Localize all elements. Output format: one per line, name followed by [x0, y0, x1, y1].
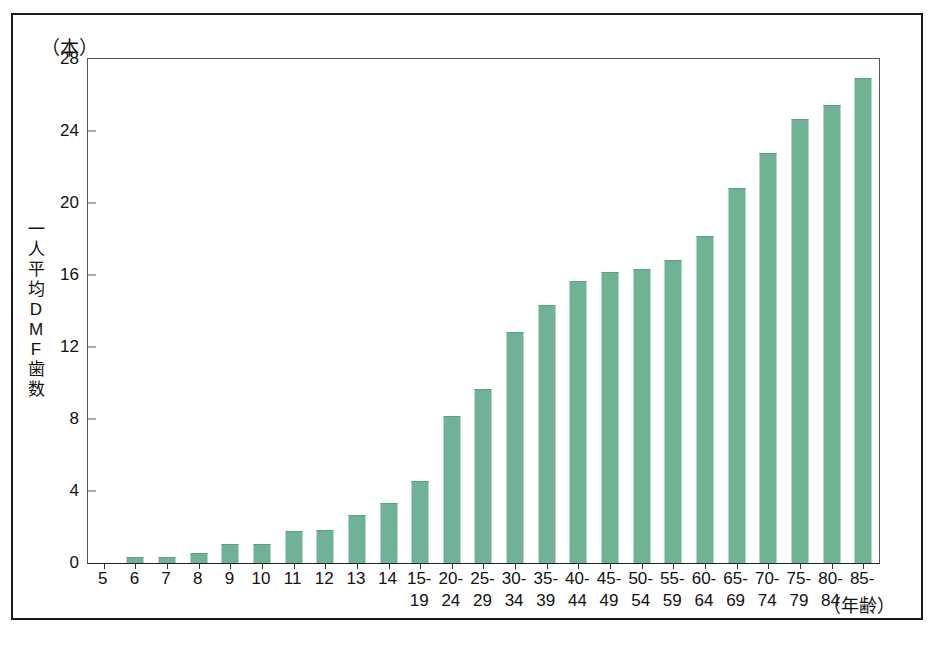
x-tick-label: 6: [130, 568, 139, 590]
x-tick-label: 20-24: [439, 568, 464, 612]
x-tick-label-line1: 55-: [660, 569, 685, 588]
y-axis-title-char: 均: [23, 280, 49, 300]
x-tick-label: 65-69: [723, 568, 748, 612]
y-axis-title-char: 一: [23, 220, 49, 240]
x-tick-label: 55-59: [660, 568, 685, 612]
bar: [380, 503, 397, 563]
x-tick-label-line1: 14: [378, 569, 397, 588]
x-tick-label-line1: 60-: [692, 569, 717, 588]
bar-slot: [689, 59, 721, 563]
bar-slot: [721, 59, 753, 563]
x-tick-label-line1: 13: [346, 569, 365, 588]
x-tick-label-line2: 64: [692, 590, 717, 612]
x-tick-label-line1: 45-: [597, 569, 622, 588]
bar-slot: [816, 59, 848, 563]
x-tick-label-line1: 8: [193, 569, 202, 588]
bar-slot: [151, 59, 183, 563]
y-tick-label: 4: [70, 481, 79, 501]
bar-slot: [752, 59, 784, 563]
x-tick-label: 13: [346, 568, 365, 590]
x-tick-label-line1: 30-: [502, 569, 527, 588]
y-tick-label: 16: [60, 265, 79, 285]
x-tick-label: 5: [98, 568, 107, 590]
x-tick-label: 60-64: [692, 568, 717, 612]
x-tick-label: 7: [161, 568, 170, 590]
bar: [317, 530, 334, 563]
x-tick-label: 8: [193, 568, 202, 590]
x-tick-label-line1: 6: [130, 569, 139, 588]
bar: [633, 269, 650, 563]
bar: [254, 544, 271, 563]
x-tick-label-line1: 80-: [818, 569, 843, 588]
x-tick-label: 45-49: [597, 568, 622, 612]
y-tick-label: 0: [70, 553, 79, 573]
x-tick-label: 70-74: [755, 568, 780, 612]
bar: [665, 260, 682, 563]
bar-slot: [215, 59, 247, 563]
x-tick-label-line2: 44: [565, 590, 590, 612]
bar-slot: [120, 59, 152, 563]
bar-slot: [341, 59, 373, 563]
x-tick-label: 14: [378, 568, 397, 590]
bar: [570, 281, 587, 563]
x-tick-label: 50-54: [628, 568, 653, 612]
x-tick-label-line1: 50-: [628, 569, 653, 588]
x-tick-label-line1: 70-: [755, 569, 780, 588]
x-tick-label-line2: 74: [755, 590, 780, 612]
bar: [538, 305, 555, 563]
bar: [823, 105, 840, 563]
bar-slot: [499, 59, 531, 563]
bar: [412, 481, 429, 563]
bar-slot: [531, 59, 563, 563]
x-tick-label-line2: 54: [628, 590, 653, 612]
x-tick-label: 25-29: [470, 568, 495, 612]
y-tick-label: 28: [60, 49, 79, 69]
bar: [507, 332, 524, 563]
bar-slot: [373, 59, 405, 563]
y-tick-label: 12: [60, 337, 79, 357]
y-axis-title: 一人平均DMF歯数: [23, 220, 49, 400]
x-tick-label: 15-19: [407, 568, 432, 612]
bar-slot: [404, 59, 436, 563]
bar: [285, 531, 302, 563]
x-tick-label-line2: 29: [470, 590, 495, 612]
bar-series: [88, 59, 879, 563]
x-tick-label-line1: 25-: [470, 569, 495, 588]
y-tick-label: 24: [60, 121, 79, 141]
x-tick-label-line2: 49: [597, 590, 622, 612]
bar: [348, 515, 365, 563]
y-axis-title-char: F: [23, 340, 49, 360]
bar: [475, 389, 492, 563]
x-tick-label-line1: 5: [98, 569, 107, 588]
x-tick-label: 9: [225, 568, 234, 590]
bar: [696, 236, 713, 563]
x-tick-label: 75-79: [787, 568, 812, 612]
bar-slot: [246, 59, 278, 563]
x-tick-label-line1: 7: [161, 569, 170, 588]
bar: [190, 553, 207, 563]
x-tick-label: 35-39: [533, 568, 558, 612]
bar: [791, 119, 808, 563]
bar-slot: [88, 59, 120, 563]
x-tick-label-line2: 69: [723, 590, 748, 612]
bar-slot: [183, 59, 215, 563]
x-tick-label-line1: 85-: [850, 569, 875, 588]
y-tick-label: 8: [70, 409, 79, 429]
x-tick-label-line1: 11: [284, 569, 302, 588]
x-tick-label-line2: 59: [660, 590, 685, 612]
x-tick-label-line1: 12: [315, 569, 334, 588]
bar-slot: [436, 59, 468, 563]
bar-slot: [468, 59, 500, 563]
x-axis-title: （年齢）: [823, 591, 895, 617]
bar-slot: [658, 59, 690, 563]
bar: [443, 416, 460, 563]
x-tick-label-line1: 40-: [565, 569, 590, 588]
bar-slot: [784, 59, 816, 563]
bar-slot: [847, 59, 879, 563]
bar-slot: [309, 59, 341, 563]
x-tick-label: 11: [284, 568, 302, 590]
bar-slot: [563, 59, 595, 563]
bar: [728, 188, 745, 563]
x-tick-label: 40-44: [565, 568, 590, 612]
bar-slot: [278, 59, 310, 563]
